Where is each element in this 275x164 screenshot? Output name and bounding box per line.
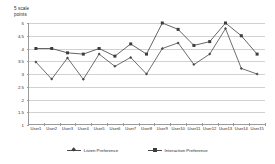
y-axis-tick-label: 3.5 bbox=[4, 59, 24, 64]
y-axis-title: 5 scale points bbox=[14, 6, 29, 17]
y-axis-tick-label: 3 bbox=[4, 72, 24, 77]
data-point bbox=[224, 22, 227, 25]
data-point bbox=[113, 55, 116, 58]
x-axis-tick bbox=[91, 123, 92, 126]
data-point bbox=[50, 47, 53, 50]
y-axis-tick-label: 1.5 bbox=[4, 110, 24, 115]
series-line bbox=[36, 23, 257, 56]
x-axis-tick bbox=[60, 123, 61, 126]
y-axis-tick-label: 4.5 bbox=[4, 33, 24, 38]
y-axis-tick-label: 4 bbox=[4, 46, 24, 51]
data-point bbox=[240, 67, 243, 70]
series-layer bbox=[28, 23, 265, 125]
x-axis-tick bbox=[123, 123, 124, 126]
x-axis-label: User5 bbox=[94, 126, 105, 131]
legend-item[interactable]: Interaction Preference bbox=[148, 147, 208, 153]
data-point bbox=[82, 53, 85, 56]
x-axis-tick bbox=[154, 123, 155, 126]
x-axis-label: User15 bbox=[250, 126, 263, 131]
x-axis-tick bbox=[139, 123, 140, 126]
x-axis-tick bbox=[28, 123, 29, 126]
x-axis-labels: User1User2User3User4User5User6User7User8… bbox=[28, 126, 265, 136]
x-axis-label: User7 bbox=[125, 126, 136, 131]
x-axis-label: User3 bbox=[62, 126, 73, 131]
x-axis-label: User1 bbox=[30, 126, 41, 131]
x-axis-tick bbox=[265, 123, 266, 126]
x-axis-label: User13 bbox=[219, 126, 232, 131]
data-point bbox=[161, 22, 164, 25]
x-axis-tick bbox=[44, 123, 45, 126]
data-point bbox=[192, 44, 195, 47]
data-point bbox=[256, 53, 259, 56]
x-axis-label: User11 bbox=[187, 126, 200, 131]
data-point bbox=[256, 73, 259, 76]
x-axis-label: User2 bbox=[46, 126, 57, 131]
diamond-marker-icon bbox=[67, 147, 81, 153]
square-marker-icon bbox=[148, 147, 162, 153]
legend-label: Listen Preference bbox=[84, 148, 118, 153]
y-axis-tick-label: 5 bbox=[4, 21, 24, 26]
data-point bbox=[208, 40, 211, 43]
legend-label: Interaction Preference bbox=[165, 148, 208, 153]
data-point bbox=[145, 53, 148, 56]
data-point bbox=[129, 42, 132, 45]
data-point bbox=[177, 28, 180, 31]
y-axis-tick-label: 1 bbox=[4, 123, 24, 128]
data-point bbox=[34, 47, 37, 50]
x-axis-tick bbox=[75, 123, 76, 126]
x-axis-label: User9 bbox=[157, 126, 168, 131]
x-axis-label: User10 bbox=[171, 126, 184, 131]
x-axis-label: User4 bbox=[78, 126, 89, 131]
legend-item[interactable]: Listen Preference bbox=[67, 147, 118, 153]
data-point bbox=[240, 34, 243, 37]
x-axis-tick bbox=[107, 123, 108, 126]
y-axis-tick-label: 2.5 bbox=[4, 84, 24, 89]
x-axis-label: User6 bbox=[109, 126, 120, 131]
x-axis-label: User14 bbox=[235, 126, 248, 131]
data-point bbox=[66, 51, 69, 54]
y-axis-tick-label: 2 bbox=[4, 97, 24, 102]
chart-container: 5 scale points 54.543.532.521.51 User1Us… bbox=[0, 0, 275, 164]
chart-legend: Listen PreferenceInteraction Preference bbox=[0, 143, 275, 157]
x-axis-label: User12 bbox=[203, 126, 216, 131]
x-axis-label: User8 bbox=[141, 126, 152, 131]
data-point bbox=[98, 47, 101, 50]
